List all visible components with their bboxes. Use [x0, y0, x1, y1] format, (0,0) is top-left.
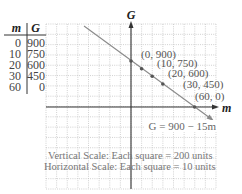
g-axis-arrow-icon: [129, 21, 134, 28]
horizontal-scale-note: Horizontal Scale: Each square = 10 units: [44, 161, 216, 172]
scale-notes: Vertical Scale: Each square = 200 units …: [44, 150, 216, 172]
m-axis-label: m: [222, 101, 231, 115]
table-cell: 60: [9, 80, 21, 94]
table-header-m: m: [12, 21, 21, 35]
table-cell: 0: [39, 80, 45, 94]
point-60-0: [193, 105, 197, 109]
equation-text: G = 900 − 15m: [149, 120, 217, 132]
point-label: (60, 0): [195, 90, 225, 103]
point-0-900: [129, 59, 133, 63]
m-axis-arrow-icon: [212, 105, 219, 110]
table-header-g: G: [31, 21, 40, 35]
point-30-450: [161, 82, 165, 86]
chart-canvas: m G 0 900 10 750 20 600 30 450 60 0 G m: [0, 0, 242, 194]
g-axis-label: G: [127, 8, 136, 22]
value-table: m G 0 900 10 750 20 600 30 450 60 0: [4, 21, 46, 94]
point-10-750: [140, 67, 144, 71]
equation-label: G = 900 − 15m: [145, 120, 217, 132]
point-20-600: [150, 74, 154, 78]
vertical-scale-note: Vertical Scale: Each square = 200 units: [48, 150, 213, 161]
